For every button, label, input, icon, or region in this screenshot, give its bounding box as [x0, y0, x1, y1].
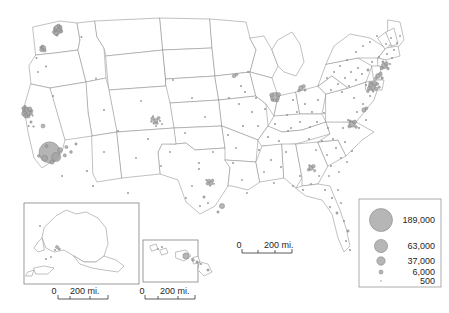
population-circle-symbol	[246, 192, 248, 194]
population-circle-symbol	[339, 65, 341, 67]
population-circle-symbol	[365, 107, 368, 110]
population-circle-symbol	[191, 185, 193, 187]
population-circle-symbol	[387, 67, 390, 70]
population-circle-symbol	[355, 51, 357, 53]
population-circle-symbol	[200, 263, 202, 265]
population-circle-symbol	[367, 86, 371, 90]
population-circle-symbol	[292, 185, 294, 187]
population-circle-symbol	[327, 127, 329, 129]
population-circle-symbol	[399, 35, 401, 37]
population-circle-symbol	[331, 197, 333, 199]
population-circle-symbol	[337, 189, 339, 191]
population-circle-symbol	[351, 150, 353, 152]
population-circle-symbol	[42, 155, 48, 161]
population-circle-symbol	[58, 248, 60, 250]
population-circle-symbol	[183, 253, 189, 259]
population-circle-symbol	[341, 91, 343, 93]
population-circle-symbol	[335, 147, 337, 149]
population-circle-symbol	[287, 130, 289, 132]
population-circle-symbol	[391, 57, 393, 59]
legend-symbol	[380, 280, 382, 282]
population-circle-symbol	[206, 182, 209, 185]
population-circle-symbol	[299, 121, 301, 123]
population-circle-symbol	[345, 240, 347, 242]
population-circle-symbol	[204, 116, 206, 118]
population-circle-symbol	[199, 205, 201, 207]
population-circle-symbol	[264, 108, 266, 110]
population-circle-symbol	[343, 220, 345, 222]
population-circle-symbol	[196, 261, 198, 263]
population-circle-symbol	[298, 89, 301, 92]
population-circle-symbol	[95, 78, 97, 80]
population-circle-symbol	[198, 168, 200, 170]
population-circle-symbol	[127, 192, 129, 194]
population-circle-symbol	[372, 90, 374, 92]
population-circle-symbol	[299, 175, 301, 177]
population-circle-symbol	[219, 203, 224, 208]
population-circle-symbol	[310, 183, 312, 185]
population-circle-symbol	[41, 124, 45, 128]
population-circle-symbol	[321, 140, 323, 142]
population-circle-symbol	[192, 259, 195, 262]
legend-symbol	[374, 239, 387, 252]
population-circle-symbol	[56, 34, 58, 36]
population-circle-symbol	[369, 41, 371, 43]
population-circle-symbol	[103, 109, 105, 111]
population-circle-symbol	[328, 175, 330, 177]
population-circle-symbol	[371, 61, 373, 63]
population-circle-symbol	[205, 179, 207, 181]
population-circle-symbol	[378, 86, 380, 88]
population-circle-symbol	[157, 116, 160, 119]
population-circle-symbol	[185, 197, 187, 199]
population-circle-symbol	[356, 111, 358, 113]
population-circle-symbol	[362, 45, 364, 47]
population-circle-symbol	[160, 165, 162, 167]
population-circle-symbol	[271, 99, 274, 102]
population-circle-symbol	[362, 103, 364, 105]
population-circle-symbol	[347, 230, 349, 232]
population-circle-symbol	[329, 206, 331, 208]
population-circle-symbol	[147, 138, 149, 140]
population-circle-symbol	[50, 256, 52, 258]
population-circle-symbol	[153, 122, 156, 125]
population-circle-symbol	[169, 151, 171, 153]
population-circle-symbol	[241, 179, 243, 181]
population-circle-symbol	[37, 71, 39, 73]
population-circle-symbol	[24, 105, 26, 107]
population-circle-symbol	[37, 155, 40, 158]
population-circle-symbol	[227, 134, 229, 136]
population-circle-symbol	[30, 121, 32, 123]
population-circle-symbol	[313, 169, 315, 171]
population-circle-symbol	[212, 151, 214, 153]
population-circle-symbol	[198, 162, 200, 164]
population-circle-symbol	[330, 165, 332, 167]
population-circle-symbol	[263, 171, 265, 173]
population-circle-symbol	[28, 125, 30, 127]
population-circle-symbol	[316, 121, 318, 123]
population-circle-symbol	[350, 71, 352, 73]
population-circle-symbol	[117, 130, 119, 132]
population-circle-symbol	[378, 56, 380, 58]
population-circle-symbol	[57, 24, 60, 27]
population-circle-symbol	[323, 112, 325, 114]
population-circle-symbol	[369, 81, 372, 84]
population-circle-symbol	[238, 103, 240, 105]
population-circle-symbol	[355, 79, 357, 81]
population-circle-symbol	[390, 37, 392, 39]
population-circle-symbol	[53, 27, 55, 29]
population-circle-symbol	[348, 125, 351, 128]
population-circle-symbol	[278, 140, 280, 142]
population-circle-symbol	[270, 93, 274, 97]
main-map-scalebar: 0 200 mi.	[236, 240, 293, 253]
population-circle-symbol	[393, 49, 395, 51]
population-circle-symbol	[324, 189, 326, 191]
population-circle-symbol	[326, 77, 328, 79]
population-circle-symbol	[39, 225, 41, 227]
population-circle-symbol	[207, 269, 209, 271]
population-circle-symbol	[292, 99, 294, 101]
alaska-scalebar-distance: 200 mi.	[70, 286, 100, 296]
population-circle-symbol	[39, 46, 41, 48]
population-circle-symbol	[172, 79, 174, 81]
population-circle-symbol	[302, 84, 306, 88]
population-circle-symbol	[161, 123, 163, 125]
